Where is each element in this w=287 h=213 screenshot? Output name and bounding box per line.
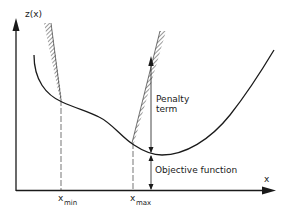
- x-axis-arrow-icon: [262, 187, 276, 195]
- objective-arrow-down-icon: [149, 184, 154, 190]
- x-axis: [16, 187, 276, 195]
- y-axis: [13, 18, 20, 191]
- x-max-label: x max: [130, 193, 151, 207]
- x-min-label: x min: [58, 193, 77, 207]
- upper-bound-penalty-hatch: [132, 31, 166, 143]
- penalty-function-diagram: z(x) x Penalty term Objective function x…: [0, 0, 287, 213]
- x-axis-label: x: [264, 174, 270, 184]
- upper-bound-penalty-edge: [132, 31, 160, 143]
- penalty-term-label-line1: Penalty: [156, 94, 190, 104]
- penalty-term-label-line2: term: [156, 104, 177, 114]
- objective-arrow-up-icon: [149, 155, 154, 161]
- objective-function-label: Objective function: [155, 165, 237, 175]
- objective-function-arrow: [149, 155, 154, 190]
- x-min-subscript: min: [64, 199, 77, 207]
- x-max-subscript: max: [136, 199, 151, 207]
- y-axis-label: z(x): [25, 9, 42, 19]
- y-axis-arrow-icon: [13, 18, 20, 31]
